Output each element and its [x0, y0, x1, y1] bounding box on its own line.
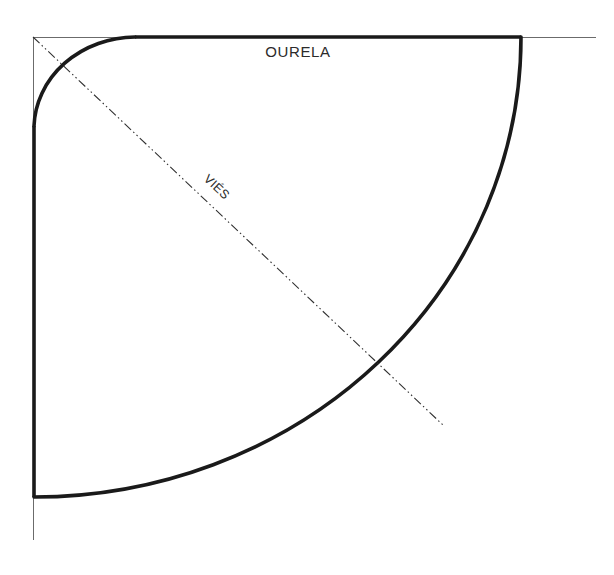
pattern-diagram-canvas: OURELA VIÉS: [0, 0, 614, 575]
selvage-label: OURELA: [265, 43, 330, 60]
paper-background: [0, 0, 614, 575]
pattern-drawing: OURELA VIÉS: [0, 0, 614, 575]
